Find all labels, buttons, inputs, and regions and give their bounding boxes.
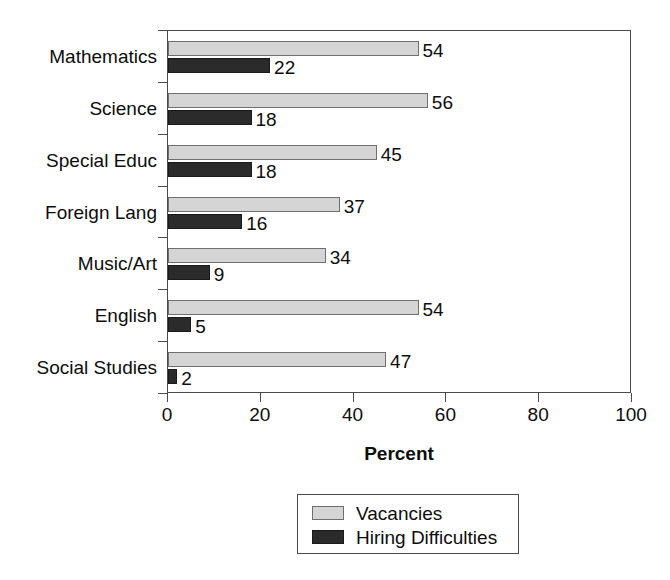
light-gray-swatch-icon [312,506,344,520]
x-axis-tick [353,393,354,402]
bar-value-label: 18 [256,162,277,181]
y-axis-tick [158,393,167,394]
bar-group: 5422 [168,31,630,83]
bar-vac-mathematics [168,41,419,56]
bar-value-label: 9 [214,265,225,284]
bar-group: 4518 [168,135,630,187]
bar-value-label: 45 [381,145,402,164]
bar-value-label: 54 [423,41,444,60]
bar-group: 3716 [168,187,630,239]
bar-hire-mathematics [168,58,270,73]
bar-vac-special-educ [168,145,377,160]
legend-label-hiring-difficulties: Hiring Difficulties [356,528,497,547]
x-axis-tick [167,393,168,402]
dark-swatch-icon [312,530,344,544]
bar-hire-foreign-lang [168,214,242,229]
bar-value-label: 22 [274,58,295,77]
x-axis-tick [445,393,446,402]
plot-area: 5422561845183716349545472 [167,30,631,393]
bar-vac-social-studies [168,352,386,367]
y-axis-label-music-art: Music/Art [0,254,157,273]
x-axis-tick [260,393,261,402]
y-axis-tick [158,134,167,135]
bar-vac-science [168,93,428,108]
y-axis-label-special-educ: Special Educ [0,151,157,170]
bar-vac-english [168,300,419,315]
x-axis-tick-label: 40 [342,405,363,424]
y-axis-label-social-studies: Social Studies [0,358,157,377]
y-axis-label-mathematics: Mathematics [0,47,157,66]
bar-value-label: 56 [432,93,453,112]
bar-hire-special-educ [168,162,252,177]
x-axis-tick-label: 100 [615,405,647,424]
legend-item-vacancies: Vacancies [312,502,442,524]
bar-value-label: 54 [423,300,444,319]
legend-item-hiring-difficulties: Hiring Difficulties [312,526,497,548]
y-axis-tick [158,341,167,342]
bar-group: 545 [168,290,630,342]
bar-value-label: 47 [390,352,411,371]
bar-value-label: 5 [195,317,206,336]
x-axis-tick-label: 60 [435,405,456,424]
x-axis-tick-label: 0 [162,405,173,424]
bar-value-label: 34 [330,248,351,267]
x-axis-tick [538,393,539,402]
bar-group: 472 [168,342,630,394]
bar-value-label: 2 [181,369,192,388]
x-axis-title: Percent [167,443,631,465]
y-axis-label-foreign-lang: Foreign Lang [0,203,157,222]
bar-group: 5618 [168,83,630,135]
bar-hire-music-art [168,265,210,280]
y-axis-tick [158,186,167,187]
bar-group: 349 [168,238,630,290]
chart-legend: Vacancies Hiring Difficulties [297,494,519,554]
y-axis-tick [158,237,167,238]
y-axis-tick [158,82,167,83]
bar-value-label: 18 [256,110,277,129]
y-axis-tick [158,289,167,290]
y-axis-label-science: Science [0,99,157,118]
bar-chart: Mathematics Science Special Educ Foreign… [0,0,670,580]
bar-value-label: 16 [246,214,267,233]
y-axis-tick [158,30,167,31]
bar-vac-foreign-lang [168,197,340,212]
x-axis-tick-label: 80 [528,405,549,424]
bar-hire-social-studies [168,369,177,384]
y-axis-label-english: English [0,306,157,325]
x-axis-tick-label: 20 [249,405,270,424]
bar-hire-english [168,317,191,332]
x-axis-tick [631,393,632,402]
bar-hire-science [168,110,252,125]
legend-label-vacancies: Vacancies [356,504,442,523]
bar-value-label: 37 [344,197,365,216]
bar-vac-music-art [168,248,326,263]
